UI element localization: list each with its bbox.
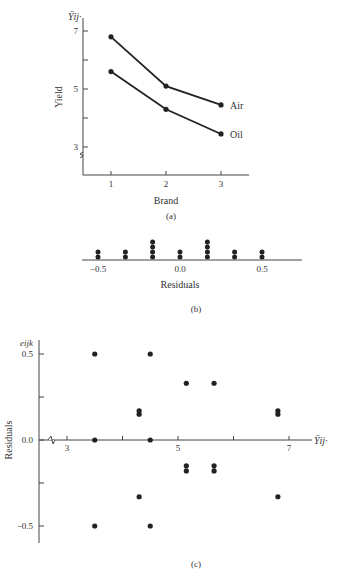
c-y-ticks: −0.50.00.5 <box>17 349 44 531</box>
c-x-right-label: Ȳij· <box>314 435 328 446</box>
dot <box>150 255 155 260</box>
svg-text:0.5: 0.5 <box>256 264 268 274</box>
chart-c: −0.50.00.5 357 eijk Ȳij· Residuals (c) <box>3 338 328 569</box>
chart-a: 357 123 Ȳij· Yield Air Oil Brand (a) <box>53 11 249 221</box>
a-series <box>108 34 223 136</box>
a-caption: (a) <box>166 211 176 221</box>
dot <box>150 250 155 255</box>
data-point <box>108 34 113 39</box>
svg-text:3: 3 <box>74 142 79 152</box>
dot <box>260 250 265 255</box>
svg-text:0.0: 0.0 <box>174 264 186 274</box>
svg-text:5: 5 <box>74 84 79 94</box>
residual-point <box>137 494 142 499</box>
dot <box>205 255 210 260</box>
svg-text:−0.5: −0.5 <box>90 264 107 274</box>
residual-point <box>184 381 189 386</box>
residual-point <box>211 468 216 473</box>
c-y-label: Residuals <box>3 420 14 459</box>
chart-b: −0.50.00.5 Residuals (b) <box>82 240 302 315</box>
svg-text:7: 7 <box>287 443 292 453</box>
dot <box>205 250 210 255</box>
dot <box>150 245 155 250</box>
b-caption: (b) <box>191 304 202 314</box>
residual-point <box>275 494 280 499</box>
c-y-top-label: eijk <box>20 338 34 348</box>
series-line-oil <box>111 72 221 134</box>
svg-text:7: 7 <box>74 26 79 36</box>
svg-text:2: 2 <box>164 179 169 189</box>
c-caption: (c) <box>191 559 201 569</box>
b-x-label: Residuals <box>161 279 200 290</box>
svg-text:5: 5 <box>176 443 181 453</box>
legend-oil: Oil <box>230 129 243 140</box>
dot <box>150 240 155 245</box>
dot <box>232 255 237 260</box>
figure-canvas: 357 123 Ȳij· Yield Air Oil Brand (a) −0.… <box>0 0 343 579</box>
residual-point <box>148 437 153 442</box>
residual-point <box>184 463 189 468</box>
c-axis-break <box>48 436 55 444</box>
a-y-label: Yield <box>53 86 64 108</box>
dot <box>178 250 183 255</box>
svg-text:0.5: 0.5 <box>22 349 34 359</box>
residual-point <box>148 523 153 528</box>
dot <box>260 255 265 260</box>
svg-text:3: 3 <box>65 443 70 453</box>
svg-text:1: 1 <box>109 179 114 189</box>
residual-point <box>184 468 189 473</box>
b-dots <box>96 240 265 260</box>
dot <box>178 255 183 260</box>
svg-text:−0.5: −0.5 <box>17 521 34 531</box>
residual-point <box>148 351 153 356</box>
c-x-ticks: 357 <box>65 436 292 453</box>
b-x-ticks: −0.50.00.5 <box>90 264 268 274</box>
svg-text:3: 3 <box>219 179 224 189</box>
data-point <box>218 131 223 136</box>
residual-point <box>211 381 216 386</box>
residual-point <box>92 523 97 528</box>
data-point <box>218 102 223 107</box>
dot <box>96 250 101 255</box>
a-y-ticks: 357 <box>74 26 89 152</box>
dot <box>96 255 101 260</box>
data-point <box>163 84 168 89</box>
data-point <box>108 69 113 74</box>
legend-air: Air <box>230 100 244 111</box>
residual-point <box>211 463 216 468</box>
residual-point <box>92 351 97 356</box>
svg-text:0.0: 0.0 <box>22 435 34 445</box>
a-x-ticks: 123 <box>109 171 224 189</box>
dot <box>123 250 128 255</box>
dot <box>123 255 128 260</box>
dot <box>205 240 210 245</box>
residual-point <box>137 412 142 417</box>
dot <box>232 250 237 255</box>
data-point <box>163 107 168 112</box>
residual-point <box>92 437 97 442</box>
residual-point <box>275 412 280 417</box>
dot <box>205 245 210 250</box>
series-line-air <box>111 37 221 105</box>
a-x-label: Brand <box>154 195 178 206</box>
a-y-top-label: Ȳij· <box>68 11 82 22</box>
